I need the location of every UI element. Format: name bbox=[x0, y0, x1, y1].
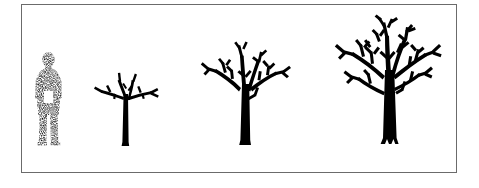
human-silhouette-body bbox=[35, 52, 62, 145]
tree-stage-3 bbox=[329, 8, 457, 148]
tree-stage-1 bbox=[89, 60, 165, 148]
tree-stage-2-silhouette bbox=[201, 41, 291, 145]
illustration-canvas bbox=[0, 0, 479, 188]
human-figure bbox=[33, 51, 65, 148]
figure-frame bbox=[21, 4, 457, 173]
tree-stage-1-silhouette bbox=[94, 73, 159, 146]
tree-stage-2 bbox=[194, 32, 302, 148]
tree-stage-3-silhouette bbox=[335, 14, 442, 145]
